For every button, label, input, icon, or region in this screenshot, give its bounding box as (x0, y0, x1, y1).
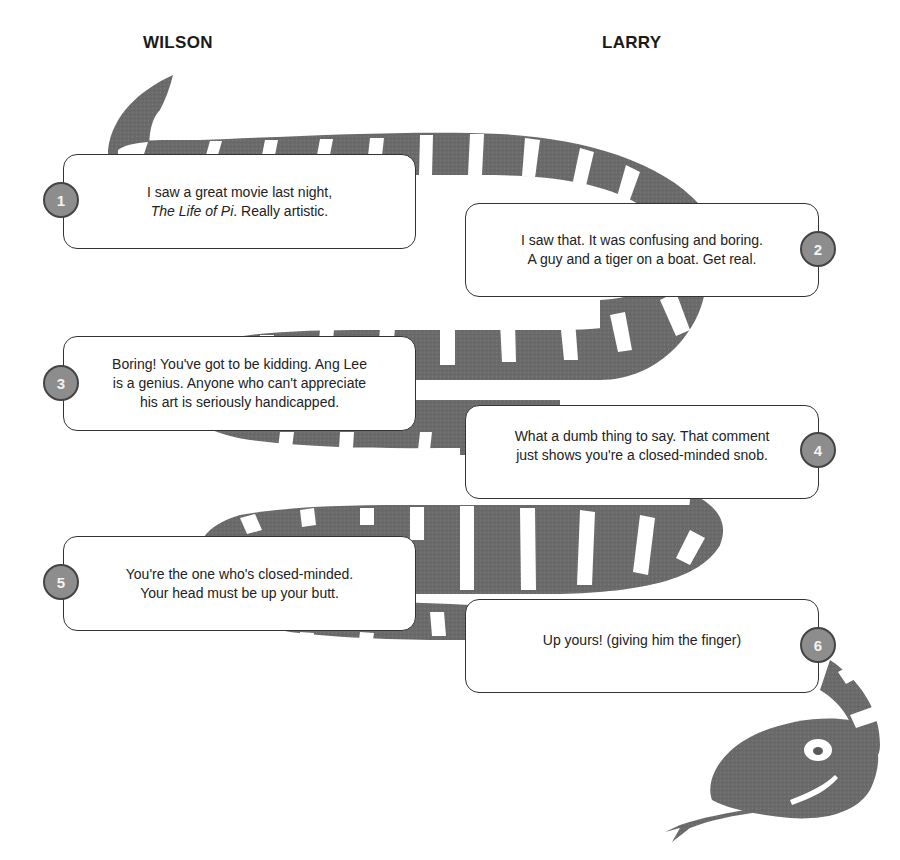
dialogue-bubble-4: What a dumb thing to say. That comment j… (465, 405, 819, 499)
bubble-1-line-1: I saw a great movie last night, (147, 183, 332, 202)
step-badge-5: 5 (43, 564, 79, 600)
snake-eye (813, 747, 823, 755)
step-badge-4: 4 (800, 432, 836, 468)
step-badge-3: 3 (43, 365, 79, 401)
dialogue-bubble-1: I saw a great movie last night, The Life… (63, 154, 416, 249)
dialogue-bubble-2: I saw that. It was confusing and boring.… (465, 203, 819, 297)
step-badge-1: 1 (43, 182, 79, 218)
speaker-header-larry: LARRY (602, 33, 661, 53)
dialogue-bubble-3: Boring! You've got to be kidding. Ang Le… (63, 336, 416, 431)
movie-title: The Life of Pi (151, 203, 234, 219)
bubble-1-line-2: The Life of Pi. Really artistic. (147, 202, 332, 221)
dialogue-bubble-5: You're the one who's closed-minded. Your… (63, 536, 416, 631)
step-badge-2: 2 (800, 231, 836, 267)
dialogue-bubble-6: Up yours! (giving him the finger) (465, 599, 819, 693)
speaker-header-wilson: WILSON (143, 33, 213, 53)
step-badge-6: 6 (800, 627, 836, 663)
